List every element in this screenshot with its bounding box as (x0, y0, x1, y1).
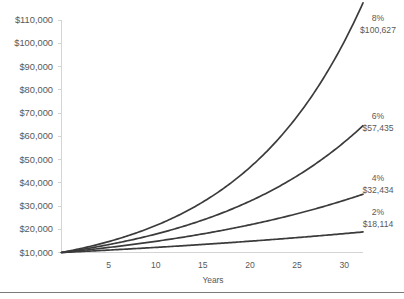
annotation-rate-2pct: 2% (372, 207, 385, 217)
annotation-value-4pct: $32,434 (362, 185, 393, 195)
annotation-value-2pct: $18,114 (363, 219, 394, 229)
x-axis-tick-label: 15 (198, 260, 208, 270)
y-axis-tick-label: $50,000 (19, 155, 53, 165)
y-axis-tick-label: $110,000 (15, 15, 53, 25)
y-axis-tick-label: $90,000 (19, 62, 53, 72)
y-axis-tick-marks (58, 20, 62, 253)
y-axis-tick-label: $80,000 (19, 85, 53, 95)
y-axis-tick-label: $30,000 (19, 201, 53, 211)
x-axis-tick-label: 30 (339, 260, 349, 270)
x-axis-title: Years (202, 275, 223, 285)
x-axis-tick-label: 5 (106, 260, 111, 270)
y-axis-tick-label: $10,000 (19, 248, 53, 258)
annotation-rate-8pct: 8% (372, 13, 385, 23)
series-lines (62, 3, 364, 253)
annotation-value-8pct: $100,627 (360, 25, 396, 35)
annotation-rate-4pct: 4% (372, 173, 385, 183)
y-axis-tick-label: $40,000 (19, 178, 53, 188)
x-axis-tick-label: 10 (151, 260, 161, 270)
annotation-rate-6pct: 6% (372, 111, 385, 121)
x-axis-tick-label: 20 (245, 260, 255, 270)
series-line-6pct (62, 126, 364, 253)
annotation-value-6pct: $57,435 (362, 123, 393, 133)
y-axis-tick-label: $70,000 (19, 108, 53, 118)
chart-canvas: $10,000$20,000$30,000$40,000$50,000$60,0… (0, 0, 404, 299)
compound-growth-chart: $10,000$20,000$30,000$40,000$50,000$60,0… (0, 0, 404, 299)
series-line-8pct (62, 3, 364, 253)
y-axis-tick-label: $100,000 (14, 38, 53, 48)
y-axis-tick-label: $20,000 (19, 224, 53, 234)
y-axis-tick-labels: $10,000$20,000$30,000$40,000$50,000$60,0… (14, 15, 53, 258)
y-axis-tick-label: $60,000 (19, 131, 53, 141)
x-axis-tick-label: 25 (292, 260, 302, 270)
series-annotations: 8%$100,6276%$57,4354%$32,4342%$18,114 (360, 13, 396, 229)
x-axis-tick-labels: 51015202530 (106, 260, 349, 270)
